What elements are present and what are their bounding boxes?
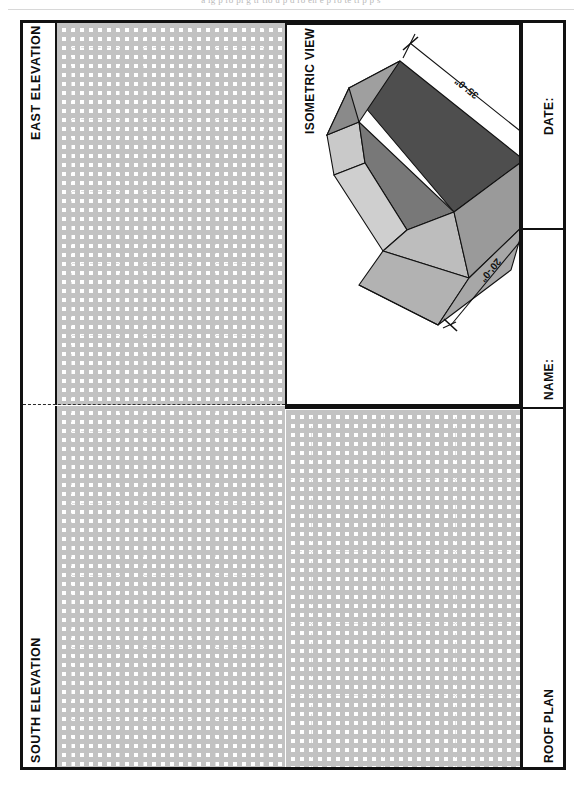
roof-plan-top-rule bbox=[285, 406, 521, 409]
isometric-viewport: 35'-0" 20'-0" bbox=[285, 23, 521, 406]
scanned-header-text: a lg p ro pl g tr tio u p d ro en e p ro… bbox=[0, 0, 582, 7]
isometric-drawing bbox=[287, 25, 521, 406]
east-elevation-label: EAST ELEVATION bbox=[29, 25, 43, 140]
south-label-divider bbox=[55, 406, 57, 767]
east-elevation-grid bbox=[57, 23, 285, 405]
roof-plan-label: ROOF PLAN bbox=[542, 689, 556, 763]
name-field-label[interactable]: NAME: bbox=[542, 359, 556, 400]
date-name-divider bbox=[521, 228, 563, 230]
elevation-panels-divider bbox=[23, 404, 285, 405]
iso-solid bbox=[327, 61, 521, 325]
south-elevation-label: SOUTH ELEVATION bbox=[29, 637, 43, 763]
drawing-sheet: a lg p ro pl g tr tio u p d ro en e p ro… bbox=[0, 0, 582, 791]
header-rule bbox=[8, 9, 574, 10]
east-label-divider bbox=[55, 23, 57, 405]
date-field-label[interactable]: DATE: bbox=[542, 97, 556, 135]
south-elevation-grid bbox=[57, 406, 285, 767]
name-roofplan-divider bbox=[521, 407, 563, 409]
roof-plan-grid bbox=[286, 410, 520, 767]
isometric-view-label: ISOMETRIC VIEW bbox=[303, 28, 317, 134]
